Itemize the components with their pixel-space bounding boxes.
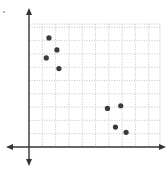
data-point — [56, 66, 61, 71]
x-axis-arrow-right-icon — [159, 144, 166, 150]
data-point — [113, 124, 118, 129]
data-point — [123, 130, 128, 135]
y-axis-arrow-down-icon — [26, 159, 32, 166]
data-point — [46, 35, 51, 40]
data-point — [118, 103, 123, 108]
y-axis-arrow-up-icon — [26, 8, 32, 15]
data-point — [54, 47, 59, 52]
stray-mark — [3, 11, 5, 13]
data-point — [44, 55, 49, 60]
grid-lines — [29, 24, 160, 147]
data-point — [105, 106, 110, 111]
x-axis-arrow-left-icon — [6, 144, 13, 150]
scatter-plot — [0, 0, 168, 171]
data-points — [44, 35, 129, 135]
axes — [6, 8, 166, 166]
